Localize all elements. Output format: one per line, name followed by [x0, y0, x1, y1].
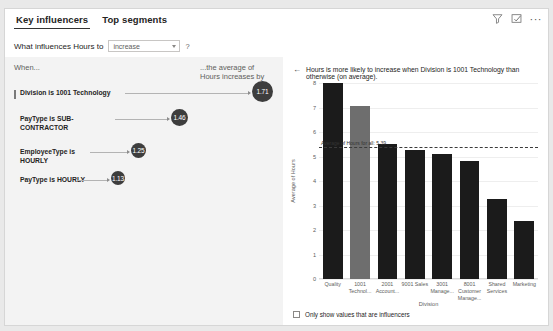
question-row: What influences Hours to increase ? — [14, 40, 190, 52]
y-axis-tick: 7 — [313, 105, 319, 111]
y-axis-tick: 5 — [313, 154, 319, 160]
when-column-header: When... — [14, 63, 40, 72]
bar[interactable] — [323, 83, 343, 279]
bar[interactable] — [514, 221, 534, 279]
bar[interactable] — [432, 154, 452, 279]
chart-title-row: ← Hours is more likely to increase when … — [293, 66, 540, 80]
x-axis-title: Division — [319, 301, 538, 307]
tab-bar: Key influencers Top segments — [14, 14, 169, 29]
y-axis-tick: 8 — [313, 80, 319, 86]
y-axis-title: Average of Hours — [288, 83, 298, 279]
y-axis-tick: 4 — [313, 178, 319, 184]
connector-line — [125, 93, 249, 94]
analysis-type-value: increase — [113, 43, 139, 50]
bar[interactable] — [378, 144, 398, 279]
influencers-panel: When... ...the average of Hours increase… — [5, 57, 283, 325]
y-axis-tick: 6 — [313, 129, 319, 135]
tab-key-influencers[interactable]: Key influencers — [14, 14, 90, 29]
x-axis-tick: 8001 Customer Manage... — [456, 281, 483, 302]
influencer-label: EmployeeType is HOURLY — [20, 148, 100, 166]
x-axis-tick: Quality — [319, 281, 346, 288]
connector-line — [90, 152, 128, 153]
x-axis-tick: 2001 Account... — [374, 281, 401, 295]
filter-icon[interactable] — [492, 13, 503, 24]
arrow-head-icon — [127, 150, 130, 154]
list-item[interactable]: PayType is SUB-CONTRACTOR 1.46 — [5, 115, 283, 149]
connector-line — [115, 119, 168, 120]
only-influencers-label: Only show values that are influencers — [305, 311, 410, 318]
detail-chart-panel: ← Hours is more likely to increase when … — [283, 57, 548, 325]
influence-bubble[interactable]: 1.46 — [171, 109, 188, 126]
visual-body: When... ...the average of Hours increase… — [5, 57, 548, 325]
question-label: What influences Hours to — [14, 42, 103, 51]
influence-bubble[interactable]: 1.13 — [111, 171, 125, 185]
average-reference-label: Average of Hours for all: 5.39 — [321, 140, 386, 146]
x-axis-tick: 1001 Technol... — [346, 281, 373, 295]
y-axis-tick: 3 — [313, 203, 319, 209]
analysis-type-select[interactable]: increase — [108, 40, 180, 52]
gridline — [319, 83, 538, 84]
connector-line — [77, 180, 108, 181]
x-axis-tick: 3001 Manage... — [429, 281, 456, 295]
list-item[interactable]: PayType is HOURLY 1.13 — [5, 176, 283, 210]
key-influencers-visual: Key influencers Top segments ··· What in… — [4, 8, 549, 326]
influence-bubble[interactable]: 1.25 — [131, 143, 146, 158]
y-axis-tick: 1 — [313, 252, 319, 258]
x-axis-tick: Shared Services — [483, 281, 510, 295]
arrow-head-icon — [167, 117, 170, 121]
influence-bubble[interactable]: 1.71 — [252, 81, 273, 102]
chart-title: Hours is more likely to increase when Di… — [306, 66, 540, 80]
arrow-head-icon — [107, 178, 110, 182]
influencer-label: PayType is SUB-CONTRACTOR — [20, 115, 80, 133]
header-icon-group: ··· — [492, 13, 543, 24]
influencer-label: Division is 1001 Technology — [20, 89, 120, 98]
y-axis-title-text: Average of Hours — [290, 159, 296, 202]
arrow-head-icon — [248, 91, 251, 95]
visual-header: Key influencers Top segments ··· — [5, 9, 548, 33]
average-reference-line — [319, 147, 538, 148]
help-icon[interactable]: ? — [185, 42, 189, 51]
only-influencers-checkbox[interactable] — [293, 311, 300, 318]
tab-top-segments[interactable]: Top segments — [100, 14, 169, 29]
bar[interactable] — [405, 150, 425, 279]
x-axis-tick-labels: Quality1001 Technol...2001 Account...900… — [319, 281, 538, 301]
bar-chart-plot-area: 012345678Average of Hours for all: 5.39 — [319, 83, 538, 279]
x-axis-tick: Marketing — [511, 281, 538, 288]
back-arrow-icon[interactable]: ← — [293, 66, 301, 74]
average-column-header: ...the average of Hours increases by — [200, 63, 274, 82]
selection-indicator — [14, 90, 16, 99]
only-influencers-checkbox-row[interactable]: Only show values that are influencers — [293, 311, 410, 318]
bar[interactable] — [487, 199, 507, 279]
chevron-down-icon — [172, 45, 176, 48]
bar[interactable] — [460, 161, 480, 279]
y-axis-tick: 2 — [313, 227, 319, 233]
focus-mode-icon[interactable] — [511, 13, 522, 24]
bar[interactable] — [350, 106, 370, 279]
gridline — [319, 279, 538, 280]
x-axis-tick: 9001 Sales — [401, 281, 428, 288]
more-options-icon[interactable]: ··· — [530, 15, 543, 23]
